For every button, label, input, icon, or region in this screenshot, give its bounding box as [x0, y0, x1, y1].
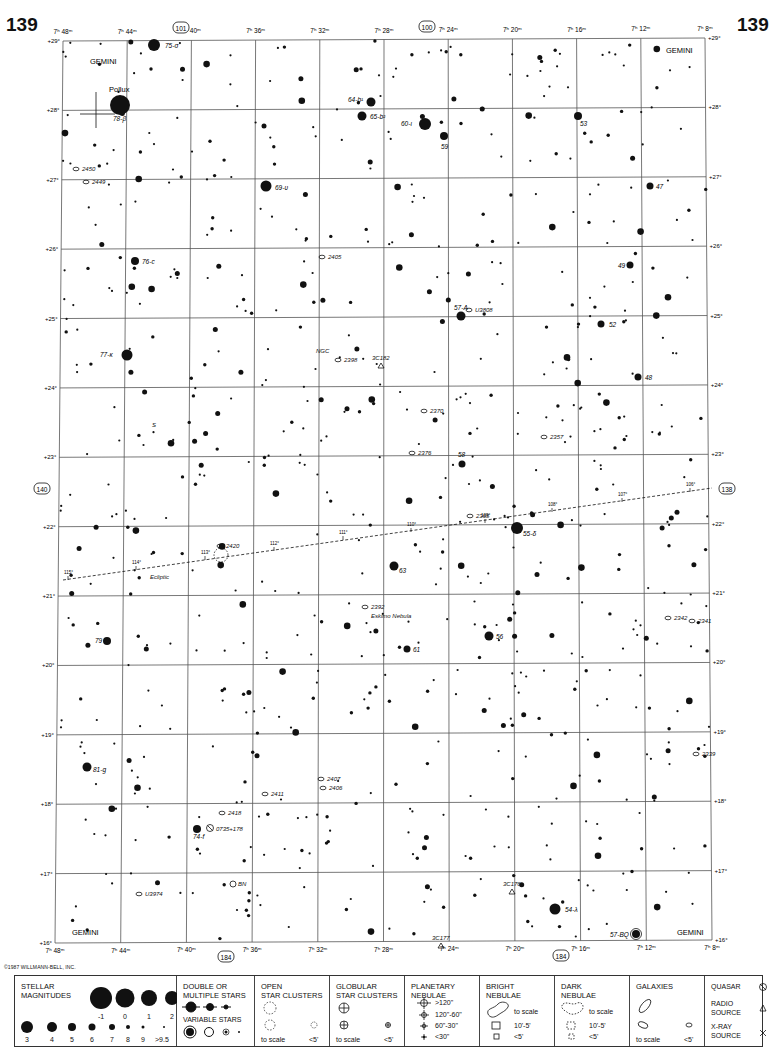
galaxy-marker — [335, 358, 341, 362]
ra-label-bottom: 7ʰ 32ᵐ — [308, 946, 327, 953]
deep-sky-label: 2407 — [326, 776, 341, 782]
ra-label-top: 7ʰ 24ᵐ — [439, 26, 458, 33]
ra-label-top: 7ʰ 28ᵐ — [375, 27, 394, 34]
star-designation-label: 58 — [458, 451, 466, 458]
deep-sky-label: 2405 — [327, 254, 342, 260]
svg-text:101: 101 — [176, 25, 187, 32]
mag-label: 9 — [141, 1036, 145, 1043]
deep-sky-label: 2365 — [475, 513, 490, 519]
size-label: 60"-30" — [435, 1022, 458, 1029]
legend-planetary-nebulae: PLANETARY NEBULAE >120" 120"-60" 60"-30"… — [405, 976, 480, 1046]
mag-label: 4 — [50, 1036, 54, 1043]
ra-label-top: 7ʰ 36ᵐ — [246, 27, 265, 34]
deep-sky-label: 2420 — [225, 543, 240, 549]
dec-label-right: +16° — [715, 937, 728, 943]
star-marker: 61 — [404, 646, 421, 654]
mag-label: 7 — [110, 1036, 114, 1043]
deep-sky-label: 2418 — [227, 810, 242, 816]
ra-label-bottom: 7ʰ 12ᵐ — [637, 944, 656, 951]
mag-label: -1 — [98, 1013, 104, 1020]
dec-label-left: +20° — [42, 662, 55, 668]
galaxy-marker — [262, 792, 268, 796]
field-stars — [60, 39, 711, 940]
deep-sky-label: 2450 — [81, 166, 96, 172]
ra-label-top: 7ʰ 48ᵐ — [54, 28, 73, 35]
ra-gridline — [318, 40, 320, 942]
galaxy-marker — [541, 435, 547, 439]
ra-label-top: 7ʰ 32ᵐ — [310, 27, 329, 34]
star-marker: 47 — [647, 183, 664, 191]
ecliptic-tick-label: 110° — [407, 522, 416, 527]
galaxy-marker — [409, 451, 415, 455]
ra-label-top: 7ʰ 20ᵐ — [503, 26, 522, 33]
star-designation-label: 81-g — [93, 766, 106, 774]
legend-open-clusters: OPEN STAR CLUSTERS to scale <5' — [255, 976, 330, 1046]
adjacent-chart-badge[interactable]: 184 — [553, 950, 569, 961]
deep-sky-label: 2376 — [417, 450, 432, 456]
star-designation-label: 61 — [413, 646, 421, 653]
ra-label-top: 7ʰ 44ᵐ — [118, 28, 137, 35]
star-marker: 74-f — [193, 825, 205, 840]
ra-gridline — [121, 41, 128, 943]
adjacent-chart-badge[interactable]: 184 — [218, 951, 234, 962]
size-label: 10'-5' — [514, 1022, 531, 1029]
dec-label-right: +19° — [713, 729, 726, 735]
dec-label-right: +28° — [709, 104, 722, 110]
dec-label-right: +25° — [710, 313, 723, 319]
legend-stellar-magnitudes: STELLAR MAGNITUDES -1 0 1 2 3 4 5 6 7 8 … — [15, 976, 177, 1046]
star-marker: 57-A — [454, 304, 468, 321]
star-marker: 60-ι — [401, 118, 431, 130]
galaxy-marker — [83, 180, 89, 184]
size-label: 10'-5' — [589, 1022, 606, 1029]
adjacent-chart-badge[interactable]: 138 — [719, 483, 735, 494]
ecliptic-line: 115°114°113°112°111°110°109°108°107°106° — [63, 482, 712, 580]
svg-text:184: 184 — [556, 953, 567, 960]
magnitude-dots-icon — [15, 976, 177, 1048]
deep-sky-label: BN — [238, 881, 247, 887]
double-variable-stars-icon — [177, 976, 255, 1048]
dec-label-right: +22° — [712, 521, 725, 527]
deep-sky-label: 2339 — [701, 751, 716, 757]
deep-sky-label: 2411 — [270, 791, 284, 797]
size-label: <30" — [435, 1033, 449, 1040]
adjacent-chart-badge[interactable]: 101 — [173, 22, 189, 33]
adjacent-chart-badge[interactable]: 140 — [34, 483, 50, 494]
legend-misc-sources: QUASAR RADIO SOURCE X-RAY SOURCE — [705, 976, 762, 1046]
dec-label-left: +28° — [47, 107, 60, 113]
to-scale-label: to scale — [514, 1008, 538, 1015]
deep-sky-label: 0735+178 — [216, 826, 244, 832]
mag-label: 1 — [147, 1013, 151, 1020]
dec-label-left: +25° — [45, 316, 58, 322]
galaxy-marker — [318, 777, 324, 781]
star-marker: 56 — [485, 632, 504, 641]
star-designation-label: 75-σ — [165, 42, 179, 49]
star-designation-label: 78-β — [113, 115, 126, 123]
ra-label-bottom: 7ʰ 28ᵐ — [374, 946, 393, 953]
star-designation-label: 56 — [496, 633, 504, 640]
legend-bright-nebulae: BRIGHT NEBULAE to scale 10'-5' <5' — [480, 976, 555, 1046]
ra-label-bottom: 7ʰ 8ᵐ — [704, 944, 720, 951]
open-cluster-2420 — [214, 548, 228, 562]
deep-sky-label: 2406 — [328, 785, 343, 791]
star-marker: 52 — [598, 321, 617, 329]
constellation-label: GEMINI — [677, 928, 704, 937]
deep-sky-label: 2357 — [549, 434, 564, 440]
ecliptic-tick-label: 106° — [686, 482, 696, 487]
constellation-label: GEMINI — [666, 46, 693, 55]
mag-label: 8 — [126, 1036, 130, 1043]
ecliptic-tick-label: 114° — [132, 560, 141, 565]
adjacent-chart-badge[interactable]: 100 — [419, 21, 435, 32]
ra-label-top: 7ʰ 12ᵐ — [631, 25, 650, 32]
ecliptic-tick-label: 108° — [548, 502, 558, 507]
to-scale-label: to scale — [589, 1008, 613, 1015]
galaxy-marker — [136, 892, 142, 896]
deep-sky-label: U3974 — [145, 891, 163, 897]
dec-label-left: +29° — [47, 38, 60, 44]
star-marker: 69-υ — [261, 181, 289, 192]
star-marker: 57-BQ — [610, 930, 640, 939]
coordinate-grid — [55, 38, 712, 943]
deep-sky-label: S — [152, 422, 156, 428]
mag-label: 5 — [70, 1036, 74, 1043]
star-designation-label: 59 — [441, 143, 449, 150]
